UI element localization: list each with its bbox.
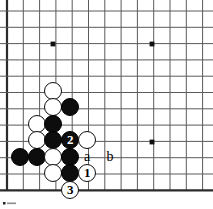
black-stone[interactable]	[44, 131, 62, 149]
white-stone[interactable]	[44, 98, 62, 116]
stone-move-number: 3	[67, 183, 73, 196]
white-stone[interactable]	[44, 164, 62, 182]
point-label-a[interactable]: a	[80, 150, 94, 164]
go-diagram-figure: 213ab	[0, 0, 213, 209]
point-label-b[interactable]: b	[103, 150, 117, 164]
black-stone[interactable]	[11, 148, 29, 166]
white-stone[interactable]	[78, 131, 96, 149]
stone-move-number: 2	[67, 133, 73, 146]
move-stone-2[interactable]: 2	[61, 131, 79, 149]
corner-tick-icon	[3, 200, 16, 207]
move-stone-3[interactable]: 3	[61, 181, 79, 199]
move-stone-1[interactable]: 1	[78, 164, 96, 182]
black-stone[interactable]	[61, 98, 79, 116]
stone-move-number: 1	[84, 166, 90, 179]
black-stone[interactable]	[61, 164, 79, 182]
stone-layer: 213ab	[0, 0, 213, 209]
